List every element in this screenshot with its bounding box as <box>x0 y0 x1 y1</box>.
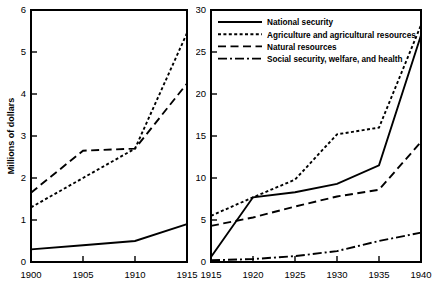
tick-label: 1900 <box>20 269 41 280</box>
series-line <box>31 84 187 193</box>
legend-label: National security <box>267 18 333 27</box>
tick-label: 0 <box>21 256 26 267</box>
tick-label: 1910 <box>124 269 145 280</box>
tick-label: 3 <box>21 130 26 141</box>
tick-label: 15 <box>196 130 206 141</box>
chart-legend: National securityAgriculture and agricul… <box>218 18 416 64</box>
tick-label: 0 <box>201 256 206 267</box>
series-line <box>211 35 421 257</box>
series-line <box>211 233 421 261</box>
right-y-tick-labels: 051015202530 <box>196 4 206 267</box>
tick-label: 6 <box>21 4 26 15</box>
figure-root: 0123456 1900190519101915 Millions of dol… <box>0 0 436 288</box>
legend-label: Natural resources <box>267 43 337 52</box>
left-data-series <box>31 33 187 249</box>
tick-label: 1915 <box>176 269 197 280</box>
tick-label: 4 <box>21 88 26 99</box>
series-line <box>31 224 187 249</box>
tick-label: 2 <box>21 172 26 183</box>
tick-label: 1930 <box>326 269 347 280</box>
right-x-tick-labels: 191519201925193019351940 <box>200 269 431 280</box>
tick-label: 1905 <box>72 269 93 280</box>
tick-label: 1940 <box>410 269 431 280</box>
tick-label: 30 <box>196 4 206 15</box>
left-plot-frame <box>31 10 187 262</box>
chart-panel-left: 0123456 1900190519101915 Millions of dol… <box>0 0 200 288</box>
right-chart-svg: 051015202530 191519201925193019351940 Mi… <box>196 0 436 288</box>
tick-label: 1 <box>21 214 26 225</box>
tick-label: 1935 <box>368 269 389 280</box>
left-chart-svg: 0123456 1900190519101915 Millions of dol… <box>0 0 200 288</box>
tick-label: 1920 <box>242 269 263 280</box>
legend-label: Agriculture and agricultural resources <box>267 31 416 40</box>
tick-label: 10 <box>196 172 206 183</box>
tick-label: 25 <box>196 46 206 57</box>
tick-label: 5 <box>201 214 206 225</box>
tick-label: 1915 <box>200 269 221 280</box>
left-x-tick-labels: 1900190519101915 <box>20 269 197 280</box>
series-line <box>31 33 187 207</box>
left-y-tick-labels: 0123456 <box>21 4 26 267</box>
chart-panel-right: 051015202530 191519201925193019351940 Mi… <box>196 0 436 288</box>
tick-label: 5 <box>21 46 26 57</box>
left-y-axis-title: Millions of dollars <box>6 98 16 175</box>
tick-label: 20 <box>196 88 206 99</box>
legend-label: Social security, welfare, and health <box>267 55 402 64</box>
tick-label: 1925 <box>284 269 305 280</box>
